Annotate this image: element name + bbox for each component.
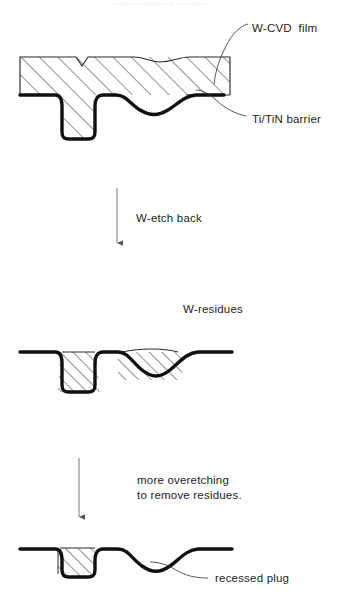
w-etch-back-label: W-etch back (136, 211, 202, 226)
w-residues-label: W-residues (183, 302, 243, 317)
ti-tin-barrier-line-stage3 (20, 549, 232, 577)
figure-caption-faint: w-plug formation by etch back (112, 0, 207, 7)
stage-2-drawing (20, 348, 232, 398)
more-overetching-line-2: to remove residues. (137, 488, 242, 503)
stage-3-drawing (20, 544, 232, 580)
more-overetching-line-1: more overetching (137, 473, 229, 488)
ti-tin-barrier-label: Ti/TiN barrier (252, 112, 321, 127)
stage-1-drawing (18, 24, 248, 143)
process-flow-figure: w-plug formation by etch back W-CVD film… (0, 0, 361, 601)
recessed-plug-label: recessed plug (215, 571, 289, 586)
figure-canvas (0, 0, 361, 601)
ti-tin-barrier-line (20, 95, 224, 139)
w-residue-top-edge (122, 349, 178, 352)
w-cvd-film-label: W-CVD film (252, 21, 317, 36)
